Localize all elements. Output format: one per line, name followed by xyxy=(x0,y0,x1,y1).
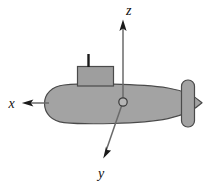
submarine-sail-group xyxy=(78,54,114,86)
z-axis-label: z xyxy=(125,3,132,18)
axis-x: x xyxy=(8,96,50,111)
submarine-rudder-group xyxy=(182,80,195,127)
sail-icon xyxy=(78,67,114,87)
x-axis-label: x xyxy=(8,96,16,111)
submarine-axes-figure: z x y xyxy=(0,0,207,186)
origin-point-icon xyxy=(119,98,127,106)
origin-marker-group xyxy=(119,98,127,106)
figure-canvas: z x y xyxy=(0,0,207,186)
y-axis-label: y xyxy=(96,166,105,181)
rudder-icon xyxy=(182,80,195,127)
